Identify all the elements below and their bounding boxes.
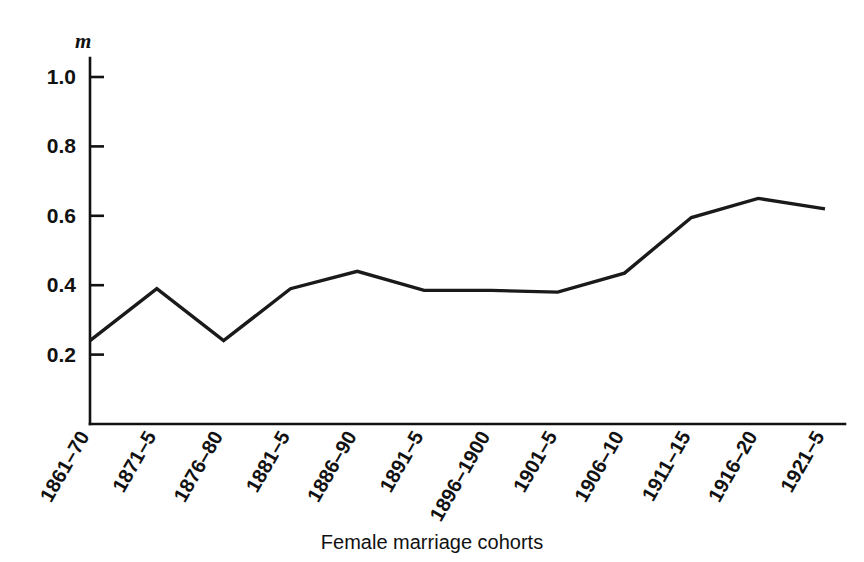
x-axis-tick-label: 1896–1900 [425,427,494,525]
y-axis-tick-label: 0.6 [47,204,76,227]
x-axis-tick-labels: 1861–701871–51876–801881–51886–901891–51… [35,427,828,525]
x-axis-tick-label: 1911–15 [637,427,694,504]
y-axis-label: m [75,29,91,53]
x-axis-tick-label: 1861–70 [35,427,93,505]
x-axis-title: Female marriage cohorts [321,531,543,553]
data-series-line [90,198,825,340]
y-axis-tick-label: 1.0 [47,65,76,88]
y-axis-tick-label: 0.4 [47,273,77,296]
y-axis-tick-label: 0.8 [47,134,77,157]
x-axis-tick-label: 1876–80 [169,427,227,505]
y-axis-tick-label: 0.2 [47,343,76,366]
chart-container: m 1.00.80.60.40.2 1861–701871–51876–8018… [0,0,864,562]
x-axis-tick-label: 1916–20 [704,427,762,505]
line-chart: m 1.00.80.60.40.2 1861–701871–51876–8018… [0,0,864,562]
x-axis-tick-label: 1891–5 [375,427,427,496]
x-axis-tick-label: 1886–90 [303,427,361,505]
x-axis-tick-label: 1871–5 [108,427,160,496]
x-axis-tick-label: 1906–10 [570,427,628,505]
x-axis-tick-label: 1901–5 [509,427,561,496]
x-axis-tick-label: 1921–5 [776,427,828,496]
x-axis-tick-label: 1881–5 [241,427,293,496]
y-axis-ticks: 1.00.80.60.40.2 [47,65,104,366]
